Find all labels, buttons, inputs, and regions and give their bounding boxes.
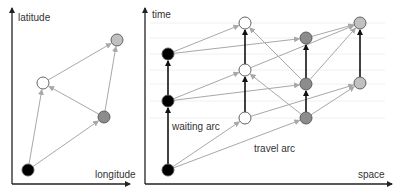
edge-arrow (105, 47, 116, 111)
node-w1 (239, 112, 251, 124)
travel-arc (174, 73, 239, 99)
node-g3 (300, 32, 312, 44)
time-gridlines (150, 23, 385, 118)
node-l1 (354, 77, 366, 89)
travel-arc-label: travel arc (254, 143, 295, 154)
node-l2 (354, 17, 366, 29)
time-label: time (152, 9, 171, 20)
left-edges (29, 44, 116, 167)
waiting-arc-label: waiting arc (171, 121, 220, 132)
node-w2 (239, 64, 251, 76)
left-panel-geographic: latitude longitude (12, 8, 136, 184)
space-label: space (358, 169, 385, 180)
travel-arc (251, 26, 354, 68)
left-nodes (22, 34, 123, 176)
node-b (37, 77, 49, 89)
node-d (111, 34, 123, 46)
node-w3 (239, 17, 251, 29)
node-g2 (300, 78, 312, 90)
right-panel-time-space: time space waiting arc travel arc (145, 8, 392, 184)
node-k3 (162, 48, 174, 60)
latitude-label: latitude (18, 12, 51, 23)
travel-arc (174, 39, 299, 54)
edge-arrow (29, 90, 42, 164)
edge-arrow (33, 121, 98, 167)
node-k2 (162, 95, 174, 107)
travel-arc (174, 26, 239, 52)
node-k1 (162, 164, 174, 176)
edge-arrow (49, 86, 99, 114)
node-g1 (300, 112, 312, 124)
diagram-canvas: latitude longitude time space waiting ar… (0, 0, 400, 194)
node-c (98, 111, 110, 123)
node-a (22, 164, 34, 176)
longitude-label: longitude (95, 169, 136, 180)
edge-arrow (48, 44, 111, 80)
